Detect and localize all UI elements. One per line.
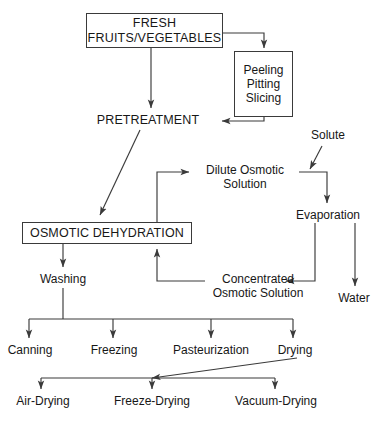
edge-fresh-to-peeling [223, 33, 264, 48]
node-label: Evaporation [296, 208, 360, 222]
node-label: Concentrated Osmotic Solution [213, 272, 304, 300]
node-vacuum-drying: Vacuum-Drying [228, 394, 324, 408]
node-label: Freezing [91, 343, 138, 357]
node-dilute-osmotic-solution: Dilute Osmotic Solution [193, 163, 297, 191]
node-label: Pasteurization [173, 343, 249, 357]
node-freezing: Freezing [84, 343, 144, 357]
node-label: Solute [311, 128, 345, 142]
node-air-drying: Air-Drying [14, 394, 72, 408]
node-label: FRESH FRUITS/VEGETABLES [88, 16, 222, 46]
node-label: OSMOTIC DEHYDRATION [30, 226, 184, 241]
node-pasteurization: Pasteurization [161, 343, 261, 357]
flowchart-canvas: FRESH FRUITS/VEGETABLES Peeling Pitting … [0, 0, 378, 428]
node-canning: Canning [3, 343, 57, 357]
node-solute: Solute [300, 128, 356, 142]
node-fresh-fruits-vegetables: FRESH FRUITS/VEGETABLES [86, 13, 223, 48]
edge-drying-to-split-bar [152, 358, 297, 378]
node-evaporation: Evaporation [287, 208, 369, 222]
node-washing: Washing [29, 272, 97, 286]
node-freeze-drying: Freeze-Drying [109, 394, 195, 408]
node-label: Air-Drying [16, 394, 69, 408]
node-label: PRETREATMENT [97, 113, 199, 127]
edge-osmotic-dehydration-to-dilute [157, 172, 189, 222]
node-label: Water [338, 291, 370, 305]
node-label: Peeling Pitting Slicing [243, 63, 283, 105]
node-drying: Drying [272, 343, 318, 357]
node-label: Canning [8, 343, 53, 357]
edge-solute-to-evaporation [310, 146, 322, 169]
node-osmotic-dehydration: OSMOTIC DEHYDRATION [22, 222, 192, 244]
node-label: Dilute Osmotic Solution [206, 163, 284, 191]
node-pretreatment: PRETREATMENT [83, 113, 213, 128]
node-label: Drying [278, 343, 313, 357]
node-water: Water [330, 291, 378, 305]
node-concentrated-osmotic-solution: Concentrated Osmotic Solution [203, 272, 313, 300]
edge-dilute-to-evaporation [299, 172, 327, 203]
node-label: Washing [40, 272, 86, 286]
edge-peeling-to-pretreatment [222, 117, 264, 121]
node-label: Freeze-Drying [114, 394, 190, 408]
edge-pretreatment-to-osmotic-dehydration [100, 130, 140, 215]
edge-concentrated-to-osmotic-dehydration [157, 249, 205, 281]
node-label: Vacuum-Drying [235, 394, 317, 408]
node-peeling-pitting-slicing: Peeling Pitting Slicing [234, 51, 293, 117]
